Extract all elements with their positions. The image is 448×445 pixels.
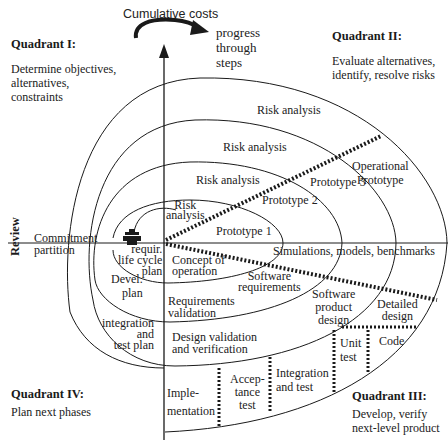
design-validation-label: Design validation and verification xyxy=(172,331,257,355)
software-product-design-label: Software product design xyxy=(312,288,355,327)
commitment-partition-label: Commitment partition xyxy=(34,232,97,256)
progress-label: progress through steps xyxy=(216,25,260,70)
prototype-2-label: Prototype 2 xyxy=(262,194,318,206)
progress-arrow-icon xyxy=(136,20,199,38)
quadrant-1-title: Quadrant I: xyxy=(11,37,76,52)
quadrant-3-description: Develop, verify next-level product xyxy=(352,407,440,435)
simulations-label: Simulations, models, benchmarks xyxy=(273,245,435,257)
devel-plan-label: Devel. plan xyxy=(111,272,143,300)
integration-test-plan-label: integration and test plan xyxy=(102,318,154,351)
prototype-1-label: Prototype 1 xyxy=(216,225,272,237)
quadrant-2-description: Evaluate alternatives, identify, resolve… xyxy=(332,54,435,82)
concept-of-operation-label: Concept of operation xyxy=(172,255,225,277)
quadrant-4-description: Plan next phases xyxy=(11,405,91,419)
quadrant-1-description: Determine objectives, alternatives, cons… xyxy=(11,62,116,104)
unit-test-label: Unit test xyxy=(340,336,361,364)
operational-prototype-label: Operational Prototype xyxy=(352,159,409,187)
acceptance-test-label: Accep- tance test xyxy=(230,373,265,412)
vertical-axis-arrowhead-icon xyxy=(159,44,169,58)
software-requirements-label: Software requirements xyxy=(238,271,301,293)
risk-analysis-4-label: Risk analysis xyxy=(257,104,321,116)
risk-analysis-2-label: Risk analysis xyxy=(196,174,260,186)
quadrant-4-title: Quadrant IV: xyxy=(11,387,84,402)
risk-analysis-3-label: Risk analysis xyxy=(223,141,287,153)
detailed-design-label: Detailed design xyxy=(377,298,418,322)
integration-and-test-label: Integration and test xyxy=(276,366,329,394)
implementation-label: Imple- mentation xyxy=(167,384,215,420)
quadrant-3-title: Quadrant III: xyxy=(352,389,427,404)
code-label: Code xyxy=(379,335,404,347)
risk-analysis-1-label: Risk analysis xyxy=(166,200,205,220)
quadrant-2-title: Quadrant II: xyxy=(332,29,402,44)
progress-arrowhead-icon xyxy=(190,20,209,35)
review-label: Review xyxy=(8,217,23,256)
requirements-validation-label: Requirements validation xyxy=(168,295,235,319)
cumulative-costs-label: Cumulative costs xyxy=(123,7,218,21)
